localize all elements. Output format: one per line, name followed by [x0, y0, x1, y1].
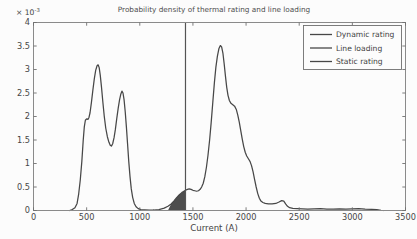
y-tick-label: 2 — [25, 111, 30, 121]
x-tick-label: 3000 — [342, 212, 363, 222]
y-axis-exponent: × 10-3 — [16, 7, 40, 17]
x-tick-label: 2500 — [289, 212, 310, 222]
legend-label-line-loading: Line loading — [336, 44, 382, 53]
x-axis-label: Current (A) — [190, 223, 238, 233]
y-tick-label: 4 — [25, 17, 30, 27]
y-tick-label: 1 — [25, 158, 30, 168]
y-tick-label: 0 — [25, 205, 30, 215]
legend-label-static-rating: Static rating — [336, 57, 383, 66]
y-tick-label: 3.5 — [17, 41, 30, 51]
x-tick-label: 1000 — [129, 212, 150, 222]
x-tick-label: 500 — [79, 212, 95, 222]
x-tick-label: 0 — [31, 212, 36, 222]
legend: Dynamic rating Line loading Static ratin… — [304, 26, 402, 70]
overlap-shaded-region — [168, 190, 186, 210]
y-tick-label: 2.5 — [17, 88, 30, 98]
series-dynamic-rating — [154, 46, 384, 211]
y-tick-label: 3 — [25, 64, 30, 74]
x-tick-label: 2000 — [236, 212, 257, 222]
x-tick-label: 1500 — [183, 212, 204, 222]
chart-svg: Probability density of thermal rating an… — [0, 0, 417, 239]
chart-title: Probability density of thermal rating an… — [118, 5, 310, 14]
chart-figure: Probability density of thermal rating an… — [0, 0, 417, 239]
legend-label-dynamic-rating: Dynamic rating — [336, 30, 395, 39]
y-tick-label: 1.5 — [17, 135, 30, 145]
series-line-loading — [70, 65, 154, 211]
x-tick-label: 3500 — [395, 212, 416, 222]
y-tick-label: 0.5 — [17, 182, 30, 192]
